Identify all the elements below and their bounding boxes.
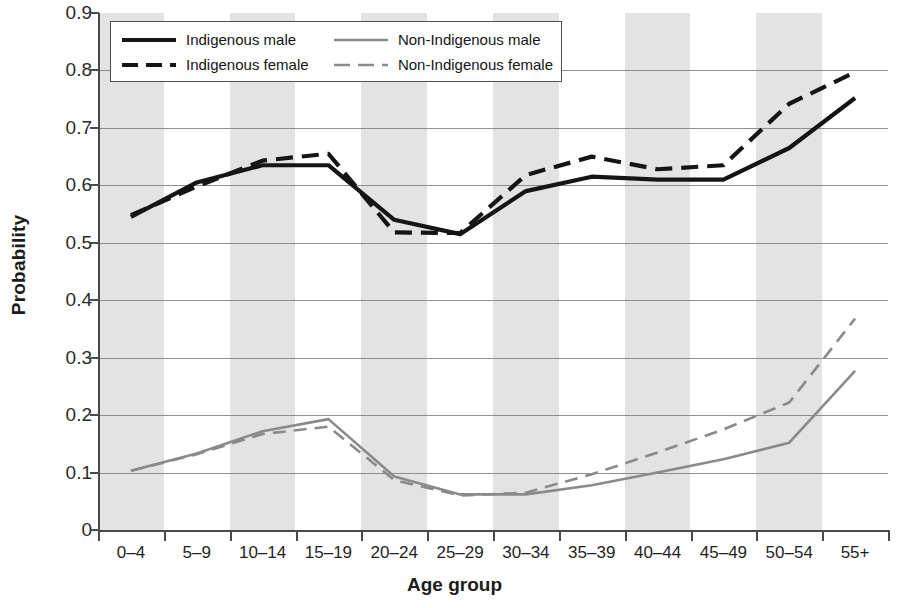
x-tick-mark	[361, 531, 363, 541]
dashed-black-line-icon	[121, 59, 177, 71]
chart-figure: Probability 0.90.80.70.60.50.40.30.20.10…	[0, 0, 909, 608]
y-axis-tick-labels: 0.90.80.70.60.50.40.30.20.10	[34, 0, 92, 540]
y-tick-label: 0.9	[36, 2, 92, 24]
y-axis-title-text: Probability	[8, 215, 30, 315]
x-tick-mark	[164, 531, 166, 541]
y-tick-mark	[90, 69, 99, 71]
y-tick-mark	[90, 472, 99, 474]
y-tick-mark	[90, 12, 99, 14]
dashed-gray-line-icon	[333, 59, 389, 71]
x-tick-mark	[822, 531, 824, 541]
data-series-line	[131, 72, 855, 233]
x-tick-label: 55+	[841, 543, 870, 563]
legend-label: Indigenous male	[186, 31, 296, 48]
x-tick-label: 45–49	[700, 543, 747, 563]
x-tick-label: 15–19	[305, 543, 352, 563]
data-series-line	[131, 371, 855, 495]
x-tick-label: 40–44	[634, 543, 681, 563]
x-tick-mark	[625, 531, 627, 541]
x-tick-mark	[296, 531, 298, 541]
x-tick-label: 30–34	[502, 543, 549, 563]
y-tick-label: 0	[36, 519, 92, 541]
chart-legend: Indigenous maleNon-Indigenous maleIndige…	[110, 21, 562, 82]
x-tick-mark	[691, 531, 693, 541]
x-tick-mark	[98, 531, 100, 541]
x-tick-label: 25–29	[436, 543, 483, 563]
y-axis-title: Probability	[2, 0, 36, 530]
y-tick-mark	[90, 357, 99, 359]
y-tick-mark	[90, 299, 99, 301]
plot-area	[98, 13, 888, 530]
x-tick-mark	[888, 531, 890, 541]
x-tick-mark	[756, 531, 758, 541]
data-series-line	[131, 319, 855, 496]
x-tick-label: 20–24	[371, 543, 418, 563]
data-series-line	[131, 98, 855, 234]
x-tick-mark	[230, 531, 232, 541]
legend-item: Non-Indigenous female	[333, 56, 553, 73]
y-tick-label: 0.7	[36, 117, 92, 139]
y-tick-label: 0.8	[36, 59, 92, 81]
y-tick-label: 0.5	[36, 232, 92, 254]
data-lines	[98, 13, 888, 530]
legend-label: Non-Indigenous male	[398, 31, 541, 48]
x-tick-label: 10–14	[239, 543, 286, 563]
legend-item: Indigenous male	[121, 31, 333, 48]
legend-label: Indigenous female	[186, 56, 309, 73]
y-tick-label: 0.2	[36, 404, 92, 426]
y-tick-mark	[90, 414, 99, 416]
x-tick-mark	[427, 531, 429, 541]
y-tick-label: 0.6	[36, 174, 92, 196]
solid-black-line-icon	[121, 34, 177, 46]
legend-item: Non-Indigenous male	[333, 31, 553, 48]
x-tick-label: 0–4	[117, 543, 145, 563]
y-tick-label: 0.4	[36, 289, 92, 311]
x-tick-mark	[559, 531, 561, 541]
y-tick-mark	[90, 184, 99, 186]
y-tick-label: 0.1	[36, 462, 92, 484]
y-tick-mark	[90, 242, 99, 244]
solid-gray-line-icon	[333, 34, 389, 46]
legend-item: Indigenous female	[121, 56, 333, 73]
y-tick-mark	[90, 127, 99, 129]
x-tick-mark	[493, 531, 495, 541]
x-tick-label: 35–39	[568, 543, 615, 563]
legend-label: Non-Indigenous female	[398, 56, 553, 73]
x-tick-label: 50–54	[766, 543, 813, 563]
x-tick-label: 5–9	[183, 543, 211, 563]
y-tick-label: 0.3	[36, 347, 92, 369]
x-axis-title: Age group	[0, 574, 909, 596]
y-axis-line	[98, 13, 100, 531]
